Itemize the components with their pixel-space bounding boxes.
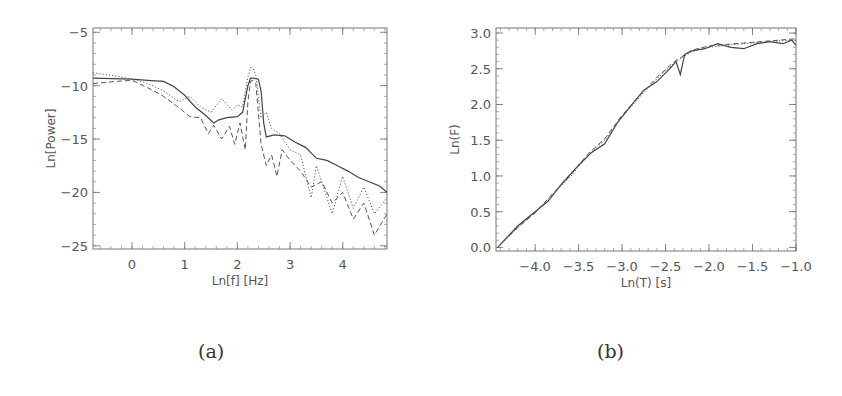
y-tick-label: 0.0 bbox=[470, 240, 491, 255]
x-tick-label: −3.5 bbox=[563, 259, 595, 274]
x-tick-label: −1.0 bbox=[780, 259, 812, 274]
y-axis-label: Ln(F) bbox=[448, 124, 462, 155]
x-tick-label: −3.0 bbox=[606, 259, 638, 274]
plot-frame bbox=[496, 28, 796, 251]
x-tick-label: −1.5 bbox=[737, 259, 769, 274]
x-tick-label: −2.5 bbox=[650, 259, 682, 274]
y-tick-label: 3.0 bbox=[470, 26, 491, 41]
y-tick-label: 1.0 bbox=[470, 169, 491, 184]
series-solid bbox=[498, 40, 796, 247]
caption-a: (a) bbox=[198, 340, 224, 362]
figure: 01234−5−10−15−20−25Ln[f] [Hz]Ln[Power] −… bbox=[0, 0, 842, 396]
caption-b: (b) bbox=[597, 340, 624, 362]
y-tick-label: 2.5 bbox=[470, 62, 491, 77]
chart-b-fluctuation-function: −4.0−3.5−3.0−2.5−2.0−1.5−1.00.00.51.01.5… bbox=[0, 0, 842, 396]
x-tick-label: −2.0 bbox=[693, 259, 725, 274]
x-axis-label: Ln(T) [s] bbox=[621, 276, 671, 290]
y-tick-label: 2.0 bbox=[470, 97, 491, 112]
x-tick-label: −4.0 bbox=[519, 259, 551, 274]
series-dashed bbox=[498, 39, 796, 248]
y-tick-label: 1.5 bbox=[470, 133, 491, 148]
series-dotted bbox=[498, 40, 796, 247]
y-tick-label: 0.5 bbox=[470, 205, 491, 220]
